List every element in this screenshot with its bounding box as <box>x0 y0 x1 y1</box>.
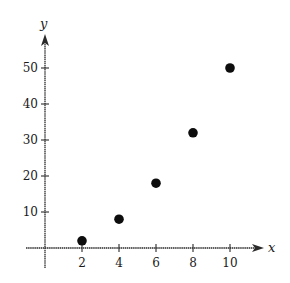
data-point <box>188 128 198 138</box>
y-tick-label: 50 <box>23 61 38 75</box>
y-axis: y 1020304050 <box>23 16 49 268</box>
x-tick-label: 6 <box>152 256 160 270</box>
x-tick-label: 8 <box>189 256 197 270</box>
y-tick-label: 10 <box>23 205 38 219</box>
data-points <box>77 63 235 245</box>
x-axis-label: x <box>268 240 276 255</box>
data-point <box>114 214 124 224</box>
x-tick-label: 4 <box>115 256 123 270</box>
data-point <box>225 63 235 73</box>
y-tick-label: 40 <box>23 97 38 111</box>
y-tick-label: 30 <box>23 133 38 147</box>
y-axis-label: y <box>39 16 48 31</box>
y-tick-label: 20 <box>23 169 38 183</box>
data-point <box>151 178 161 188</box>
x-tick-label: 10 <box>222 256 237 270</box>
scatter-chart: x 246810 y 1020304050 <box>0 0 290 283</box>
data-point <box>77 236 87 246</box>
x-axis: x 246810 <box>26 240 276 270</box>
x-tick-label: 2 <box>78 256 86 270</box>
